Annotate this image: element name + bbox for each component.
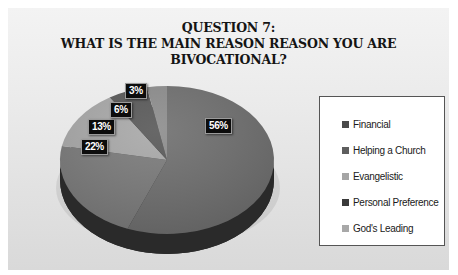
- pie-highlight: [60, 86, 274, 234]
- legend-swatch-icon: [342, 173, 349, 180]
- chart-frame: QUESTION 7: WHAT IS THE MAIN REASON REAS…: [8, 8, 449, 270]
- legend-swatch-icon: [342, 147, 349, 154]
- legend-label: Helping a Church: [353, 145, 425, 156]
- data-label-gods-leading: 3%: [125, 83, 147, 99]
- legend-label: Evangelistic: [353, 171, 403, 182]
- legend-swatch-icon: [342, 199, 349, 206]
- chart-legend: Financial Helping a Church Evangelistic …: [319, 96, 445, 246]
- legend-item-helping-a-church: Helping a Church: [342, 143, 425, 157]
- data-label-personal-preference: 6%: [110, 102, 132, 118]
- data-label-helping-a-church: 22%: [81, 139, 108, 155]
- legend-item-personal-preference: Personal Preference: [342, 195, 438, 209]
- data-label-evangelistic: 13%: [88, 119, 115, 135]
- legend-item-financial: Financial: [342, 117, 390, 131]
- legend-swatch-icon: [342, 225, 349, 232]
- legend-item-evangelistic: Evangelistic: [342, 169, 403, 183]
- legend-label: Financial: [353, 119, 390, 130]
- legend-swatch-icon: [342, 121, 349, 128]
- legend-item-gods-leading: God's Leading: [342, 221, 413, 235]
- data-label-financial: 56%: [205, 118, 232, 134]
- legend-label: God's Leading: [353, 223, 413, 234]
- legend-label: Personal Preference: [353, 197, 438, 208]
